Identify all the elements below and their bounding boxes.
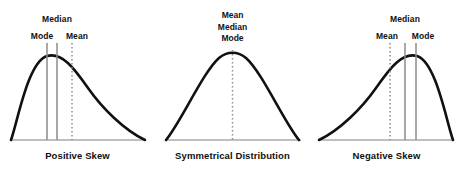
panel-positive-skew: Median Mode Mean Positive Skew	[0, 0, 155, 176]
label-median: Median	[390, 14, 420, 24]
label-mode: Mode	[412, 31, 435, 41]
label-group-central-tendency: Mean Median Mode	[218, 10, 247, 45]
label-mode: Mode	[31, 31, 54, 41]
negative-skew-plot	[310, 0, 463, 146]
label-mode: Mode	[218, 33, 247, 45]
panel-negative-skew: Median Mean Mode Negative Skew	[310, 0, 463, 176]
caption-positive-skew: Positive Skew	[0, 150, 155, 161]
positive-skew-plot	[0, 0, 155, 146]
distribution-curve	[11, 55, 145, 140]
panel-symmetrical-distribution: Mean Median Mode Symmetrical Distributio…	[155, 0, 310, 176]
skewness-figure: Median Mode Mean Positive Skew Mean Medi…	[0, 0, 463, 176]
distribution-curve	[319, 55, 453, 140]
label-mean: Mean	[376, 31, 398, 41]
caption-symmetrical-distribution: Symmetrical Distribution	[155, 150, 310, 161]
caption-negative-skew: Negative Skew	[310, 150, 463, 161]
label-mean: Mean	[218, 10, 247, 22]
label-median: Median	[42, 14, 72, 24]
label-median: Median	[218, 22, 247, 34]
label-mean: Mean	[66, 31, 88, 41]
